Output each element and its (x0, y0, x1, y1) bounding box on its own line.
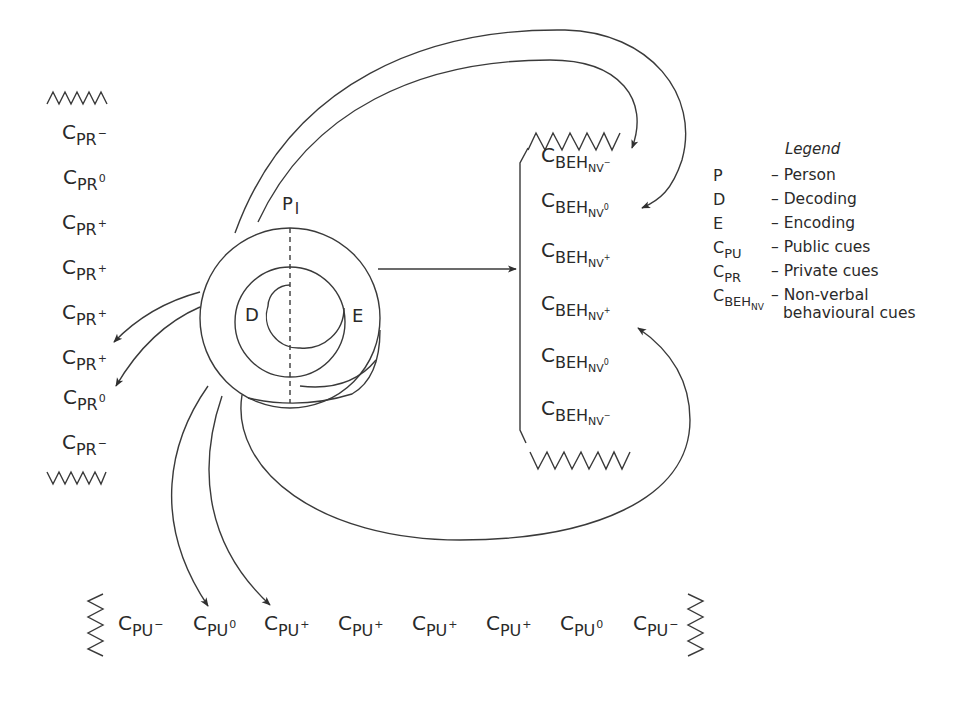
legend-key: CPR (713, 262, 771, 281)
legend-value: – Person (771, 166, 836, 184)
behaviour-zigzag-bottom (530, 452, 630, 469)
public-cue: CPU− (118, 613, 164, 633)
public-cue: CPU− (633, 613, 679, 633)
person-letter: P (282, 193, 293, 214)
public-cue: CPU0 (193, 613, 236, 633)
behavioural-cue: CBEHNV− (541, 398, 611, 418)
private-cue: CPR− (62, 432, 107, 452)
person-inner-spiral (266, 285, 344, 348)
arrow-to-public-0 (172, 386, 208, 606)
behavioural-cue: CBEHNV+ (541, 240, 611, 260)
legend-value: – Decoding (771, 190, 857, 208)
legend-item-encoding: E – Encoding (713, 214, 916, 238)
public-cue: CPU+ (486, 613, 532, 633)
legend-value: – Non-verbalbehavioural cues (771, 286, 916, 322)
behavioural-cue: CBEHNV0 (541, 345, 609, 365)
legend-item-private-cues: CPR – Private cues (713, 262, 916, 286)
arc-outer-to-beh0 (235, 30, 686, 233)
legend-key: D (713, 190, 771, 209)
public-cue: CPU+ (264, 613, 310, 633)
public-cue: CPU+ (338, 613, 384, 633)
encoding-label: E (352, 305, 363, 326)
legend-key: E (713, 214, 771, 233)
private-cue: CPR− (62, 122, 107, 142)
arrow-to-public-plus (209, 396, 270, 605)
private-zigzag-bottom (47, 472, 106, 484)
private-cue: CPR+ (62, 257, 107, 277)
public-zigzag-left (88, 594, 103, 656)
legend-value: – Encoding (771, 214, 855, 232)
person-label: PI (282, 193, 299, 214)
cue-model-diagram: PI D E CPR− CPR0 CPR+ CPR+ CPR+ CPR+ CPR… (0, 0, 978, 701)
legend-item-behavioural-cues: CBEHNV – Non-verbalbehavioural cues (713, 286, 916, 322)
legend: Legend P – Person D – Decoding E – Encod… (713, 140, 916, 322)
behaviour-bracket (520, 148, 528, 443)
legend-value: – Private cues (771, 262, 879, 280)
arrow-to-private-0 (116, 307, 200, 386)
person-outer-offset (248, 330, 380, 403)
public-cue: CPU+ (412, 613, 458, 633)
private-cue: CPR0 (63, 167, 106, 187)
decoding-label: D (245, 304, 259, 325)
legend-item-public-cues: CPU – Public cues (713, 238, 916, 262)
behavioural-cue: CBEHNV− (541, 145, 611, 165)
legend-item-person: P – Person (713, 166, 916, 190)
legend-value: – Public cues (771, 238, 870, 256)
person-index: I (295, 200, 299, 218)
behavioural-cue: CBEHNV+ (541, 293, 611, 313)
private-zigzag-top (47, 92, 107, 104)
legend-key: P (713, 166, 771, 185)
private-cue: CPR0 (63, 387, 106, 407)
private-cue: CPR+ (62, 212, 107, 232)
legend-title: Legend (785, 140, 916, 158)
diagram-lines (0, 0, 978, 701)
legend-key: CBEHNV (713, 286, 771, 305)
legend-item-decoding: D – Decoding (713, 190, 916, 214)
loop-to-beh-plus (241, 328, 690, 540)
legend-key: CPU (713, 238, 771, 257)
behavioural-cue: CBEHNV0 (541, 190, 609, 210)
public-cue: CPU0 (560, 613, 603, 633)
public-zigzag-right (688, 594, 703, 656)
private-cue: CPR+ (62, 347, 107, 367)
private-cue: CPR+ (62, 302, 107, 322)
